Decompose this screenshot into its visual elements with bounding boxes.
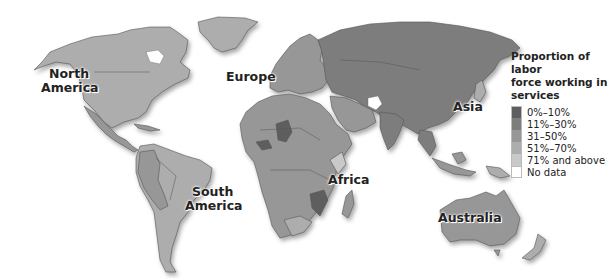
region-indonesia	[432, 158, 476, 176]
label-africa: Africa	[328, 173, 369, 187]
legend-title-line: services	[511, 89, 613, 102]
legend-item: 51%–70%	[511, 142, 613, 154]
legend-label: 31–50%	[527, 131, 567, 142]
legend-label: 71% and above	[527, 155, 605, 166]
label-line: Europe	[226, 70, 276, 84]
legend-label: 51%–70%	[527, 143, 576, 154]
legend-swatch	[511, 142, 522, 154]
legend-item: 71% and above	[511, 154, 613, 166]
region-greenland	[198, 17, 258, 52]
region-caribbean	[134, 124, 160, 131]
region-madagascar	[342, 190, 354, 218]
label-europe: Europe	[226, 70, 276, 84]
map-legend: Proportion of labor force working in ser…	[511, 50, 613, 178]
region-borneo	[452, 152, 466, 164]
legend-title-line: force working in	[511, 76, 613, 89]
region-new-guinea	[486, 166, 510, 178]
legend-item: 31–50%	[511, 130, 613, 142]
region-india	[380, 112, 404, 150]
label-line: America	[185, 199, 242, 213]
legend-swatch	[511, 154, 522, 166]
label-australia: Australia	[438, 211, 502, 225]
label-south-america: South America	[185, 185, 242, 213]
region-tasmania	[494, 250, 500, 256]
label-line: North	[41, 67, 98, 81]
legend-item: 0%–10%	[511, 106, 613, 118]
legend-item: 11%–30%	[511, 118, 613, 130]
label-line: Africa	[328, 173, 369, 187]
label-line: Australia	[438, 211, 502, 225]
legend-label: 11%–30%	[527, 119, 576, 130]
label-asia: Asia	[453, 100, 483, 114]
legend-swatch	[511, 118, 522, 130]
legend-swatch	[511, 130, 522, 142]
legend-title-line: Proportion of labor	[511, 50, 613, 76]
legend-label: No data	[527, 167, 566, 178]
region-new-zealand	[522, 234, 546, 260]
label-line: Asia	[453, 100, 483, 114]
region-southeast-asia	[418, 130, 436, 156]
legend-label: 0%–10%	[527, 107, 570, 118]
legend-swatch	[511, 106, 522, 118]
label-line: America	[41, 81, 98, 95]
legend-title: Proportion of labor force working in ser…	[511, 50, 613, 102]
legend-item: No data	[511, 166, 613, 178]
legend-swatch	[511, 166, 522, 178]
label-north-america: North America	[41, 67, 98, 95]
label-line: South	[185, 185, 242, 199]
